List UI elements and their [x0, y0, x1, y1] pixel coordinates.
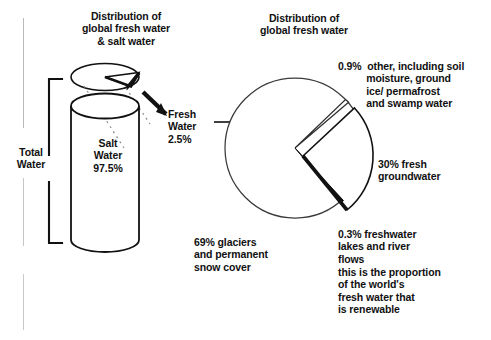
pie-label-renewable-note: this is the proportion of the world's fr… — [338, 266, 490, 316]
total-water-label: Total Water — [10, 146, 52, 171]
fresh-water-label: Fresh Water 2.5% — [168, 108, 212, 145]
left-chart-title: Distribution of global fresh water & sal… — [58, 10, 194, 47]
pie-label-groundwater: 30% fresh groundwater — [378, 158, 488, 183]
figure-canvas: Distribution of global fresh water & sal… — [0, 0, 491, 340]
pie-label-glaciers: 69% glaciers and permanent snow cover — [194, 236, 298, 273]
pie-label-other: 0.9% other, including soil moisture, gro… — [338, 60, 490, 110]
pie-label-lakes: 0.3% freshwater lakes and river flows — [338, 228, 490, 265]
salt-water-label: Salt Water 97.5% — [78, 137, 138, 174]
fresh-water-arrow — [143, 92, 167, 116]
fresh-water-disc — [71, 64, 139, 91]
right-chart-title: Distribution of global fresh water — [238, 12, 370, 37]
